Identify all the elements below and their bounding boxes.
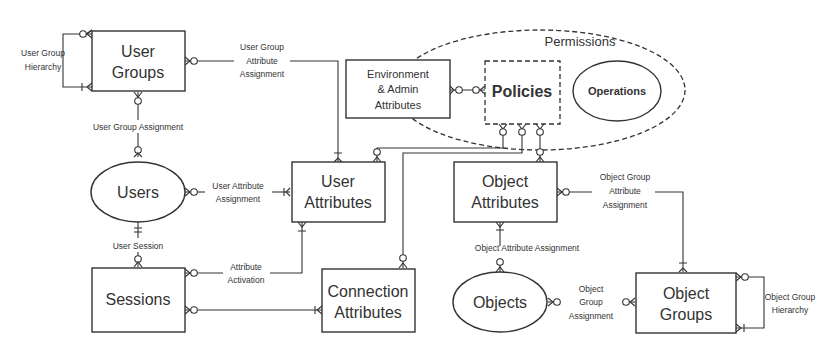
svg-text:User: User: [121, 43, 155, 60]
rel-user-group-assignment: User Group Assignment: [93, 122, 184, 132]
entity-policies[interactable]: Policies: [485, 61, 560, 124]
entity-sessions[interactable]: Sessions: [92, 268, 185, 332]
svg-text:Object: Object: [579, 284, 604, 294]
svg-text:User Attribute: User Attribute: [212, 181, 264, 191]
svg-text:Attributes: Attributes: [471, 194, 539, 211]
rel-object-group-hierarchy: Object Group Hierarchy: [765, 292, 816, 315]
svg-text:Attribute: Attribute: [609, 186, 641, 196]
svg-text:User Session: User Session: [113, 241, 164, 251]
entity-object-attributes[interactable]: Object Attributes: [454, 162, 557, 222]
rel-attribute-activation: Attribute Activation: [228, 262, 265, 285]
svg-text:Attribute: Attribute: [246, 56, 278, 66]
svg-text:Connection: Connection: [328, 283, 409, 300]
svg-text:Activation: Activation: [228, 275, 265, 285]
svg-text:Assignment: Assignment: [569, 311, 614, 321]
svg-text:Groups: Groups: [112, 64, 164, 81]
rel-user-attribute-assignment: User Attribute Assignment: [212, 181, 264, 204]
svg-text:Object Group: Object Group: [765, 292, 816, 302]
svg-text:User Group Assignment: User Group Assignment: [93, 122, 184, 132]
svg-text:Object: Object: [482, 173, 529, 190]
svg-text:Attribute: Attribute: [230, 262, 262, 272]
svg-text:Object Attribute Assignment: Object Attribute Assignment: [475, 243, 580, 253]
entity-user-attributes[interactable]: User Attributes: [292, 162, 385, 222]
entity-object-groups[interactable]: Object Groups: [636, 273, 736, 333]
entity-environment-admin-attributes[interactable]: Environment & Admin Attributes: [346, 60, 450, 118]
rel-object-attribute-assignment: Object Attribute Assignment: [475, 243, 580, 253]
svg-text:Assignment: Assignment: [240, 69, 285, 79]
svg-text:User Group: User Group: [240, 42, 284, 52]
svg-text:& Admin: & Admin: [378, 83, 419, 95]
entity-user-groups[interactable]: User Groups: [92, 31, 185, 91]
svg-text:Group: Group: [579, 297, 603, 307]
svg-text:Sessions: Sessions: [106, 291, 171, 308]
svg-text:User: User: [321, 173, 355, 190]
svg-text:Object Group: Object Group: [600, 172, 651, 182]
svg-text:Attributes: Attributes: [334, 304, 402, 321]
rel-user-session: User Session: [113, 241, 164, 251]
svg-text:Environment: Environment: [367, 68, 429, 80]
svg-text:User Group: User Group: [21, 48, 65, 58]
svg-text:Object: Object: [663, 285, 710, 302]
svg-text:Attributes: Attributes: [375, 99, 422, 111]
rel-user-group-attribute-assignment: User Group Attribute Assignment: [240, 42, 285, 79]
svg-text:Users: Users: [117, 184, 159, 201]
entity-connection-attributes[interactable]: Connection Attributes: [322, 269, 415, 332]
svg-text:Assignment: Assignment: [603, 200, 648, 210]
svg-text:Assignment: Assignment: [216, 194, 261, 204]
rel-object-group-assignment: Object Group Assignment: [569, 284, 614, 321]
svg-text:Groups: Groups: [660, 306, 712, 323]
svg-text:Hierarchy: Hierarchy: [772, 305, 809, 315]
svg-text:Operations: Operations: [588, 85, 646, 97]
entity-users[interactable]: Users: [91, 162, 185, 222]
permissions-label: Permissions: [545, 34, 616, 49]
entity-objects[interactable]: Objects: [453, 272, 547, 332]
entity-operations[interactable]: Operations: [573, 61, 661, 121]
svg-text:Attributes: Attributes: [304, 194, 372, 211]
access-control-er-diagram: Permissions: [0, 0, 830, 352]
svg-text:Policies: Policies: [492, 83, 553, 100]
rel-user-group-hierarchy: User Group Hierarchy: [21, 48, 65, 72]
svg-text:Objects: Objects: [473, 294, 527, 311]
svg-text:Hierarchy: Hierarchy: [25, 62, 62, 72]
rel-object-group-attribute-assignment: Object Group Attribute Assignment: [600, 172, 651, 210]
